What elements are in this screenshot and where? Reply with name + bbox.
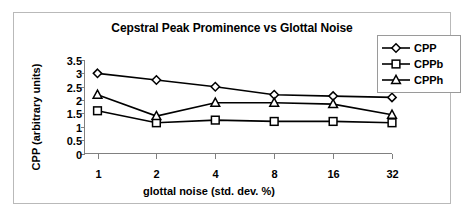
x-tick-label: 1 — [79, 168, 119, 180]
x-tick-label: 2 — [137, 168, 177, 180]
legend-label: CPPb — [414, 58, 443, 70]
legend-swatch-square-icon — [381, 57, 411, 71]
x-tick-label: 16 — [314, 168, 354, 180]
legend-swatch-diamond-icon — [381, 41, 411, 55]
legend-label: CPP — [414, 42, 437, 54]
legend-item-CPPb[interactable]: CPPb — [381, 56, 457, 72]
x-tick-label: 4 — [196, 168, 236, 180]
y-axis-title: CPP (arbitrary units) — [30, 52, 42, 182]
x-axis-title: glottal noise (std. dev. %) — [44, 185, 374, 197]
data-point-diamond — [392, 44, 400, 52]
chart-legend: CPPCPPbCPPh — [377, 35, 461, 93]
x-tick-label: 32 — [373, 168, 413, 180]
legend-swatch-triangle-icon — [381, 73, 411, 87]
chart-frame: Cepstral Peak Prominence vs Glottal Nois… — [13, 12, 451, 204]
legend-item-CPPh[interactable]: CPPh — [381, 72, 457, 88]
legend-item-CPP[interactable]: CPP — [381, 40, 457, 56]
x-tick-label: 8 — [255, 168, 295, 180]
data-point-square — [392, 60, 400, 68]
legend-label: CPPh — [414, 74, 443, 86]
